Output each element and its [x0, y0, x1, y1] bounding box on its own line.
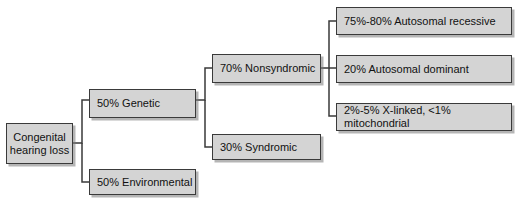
connector-genetic-to-nonsyndromic — [196, 68, 212, 100]
flowchart-diagram: Congenital hearing loss 50% Genetic 50% … — [0, 0, 519, 201]
node-nonsyndromic-label: 70% Nonsyndromic — [220, 62, 320, 75]
node-autosomal-recessive-label: 75%-80% Autosomal recessive — [344, 15, 511, 28]
node-autosomal-recessive[interactable]: 75%-80% Autosomal recessive — [336, 7, 512, 35]
node-x-linked-mitochondrial-label: 2%-5% X-linked, <1% mitochondrial — [344, 104, 511, 130]
node-x-linked-mitochondrial[interactable]: 2%-5% X-linked, <1% mitochondrial — [336, 103, 512, 131]
connector-root-to-environmental — [82, 143, 89, 182]
node-environmental-label: 50% Environmental — [97, 176, 195, 189]
root-label-line-2: hearing loss — [10, 144, 69, 156]
node-congenital-hearing-loss[interactable]: Congenital hearing loss — [6, 123, 73, 164]
node-syndromic[interactable]: 30% Syndromic — [212, 134, 321, 160]
connector-genetic-to-syndromic — [205, 100, 212, 147]
node-syndromic-label: 30% Syndromic — [220, 141, 320, 154]
node-environmental[interactable]: 50% Environmental — [89, 169, 196, 195]
connector-nonsyndromic-to-xlinked — [329, 68, 336, 116]
connector-root-to-genetic — [73, 100, 89, 143]
node-autosomal-dominant-label: 20% Autosomal dominant — [344, 63, 511, 76]
node-nonsyndromic[interactable]: 70% Nonsyndromic — [212, 54, 321, 83]
root-label-line-1: Congenital — [13, 131, 66, 143]
node-autosomal-dominant[interactable]: 20% Autosomal dominant — [336, 55, 512, 83]
node-genetic-label: 50% Genetic — [97, 97, 195, 110]
connector-nonsyndromic-to-recessive — [321, 21, 336, 68]
node-genetic[interactable]: 50% Genetic — [89, 89, 196, 118]
node-congenital-hearing-loss-label: Congenital hearing loss — [7, 131, 72, 157]
